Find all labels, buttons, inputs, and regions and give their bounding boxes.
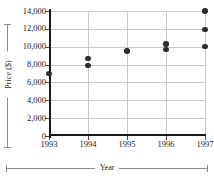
data-point (124, 48, 129, 53)
y-tick-label: 8,000 (8, 60, 46, 69)
y-tick-label: 10,000 (8, 42, 46, 51)
y-tick-label: 4,000 (8, 96, 46, 105)
x-axis-line (49, 134, 206, 136)
data-point (202, 27, 207, 32)
x-tick-label: 1995 (105, 139, 149, 149)
gridline-vertical (166, 11, 167, 136)
gridline-vertical (127, 11, 128, 136)
x-tick-label: 1997 (183, 139, 214, 149)
data-point (85, 56, 90, 61)
scatter-plot-figure: Price ($) 02,0004,0006,0008,00010,00012,… (0, 0, 214, 178)
x-axis-title: Year (95, 163, 120, 172)
x-tick-label: 1996 (144, 139, 188, 149)
data-point (85, 63, 90, 68)
x-axis-tick-labels: 19931994199519961997 (0, 139, 214, 153)
y-tick-label: 2,000 (8, 114, 46, 123)
gridline-vertical (88, 11, 89, 136)
y-tick-label: 14,000 (8, 7, 46, 16)
data-point (202, 8, 207, 13)
x-axis-title-bracket: Year (6, 162, 208, 174)
y-tick-label: 6,000 (8, 78, 46, 87)
y-tick-label: 12,000 (8, 24, 46, 33)
plot-area (49, 11, 205, 136)
data-point (46, 71, 51, 76)
data-point (163, 47, 168, 52)
x-axis-title-wrap: Year (6, 162, 208, 174)
x-tick-label: 1994 (66, 139, 110, 149)
data-point (202, 44, 207, 49)
data-point (163, 41, 168, 46)
x-tick-label: 1993 (27, 139, 71, 149)
